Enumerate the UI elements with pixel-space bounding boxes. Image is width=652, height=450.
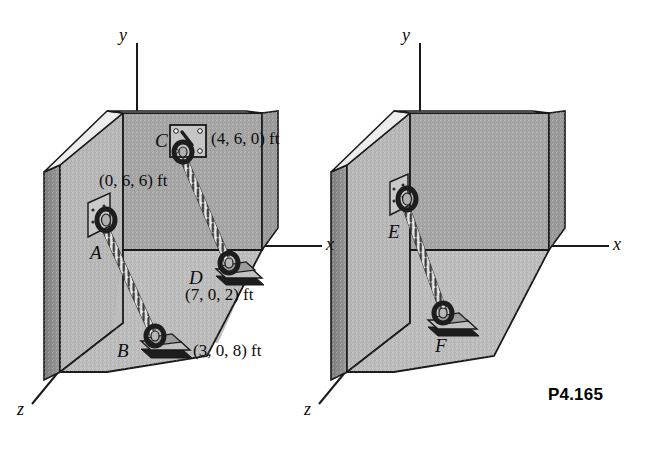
anchor-c-bracket xyxy=(170,125,206,162)
point-label-b: B xyxy=(117,341,129,360)
left-y-axis-label: y xyxy=(119,26,127,44)
left-diagram-group xyxy=(32,43,322,404)
point-label-c: C xyxy=(155,131,168,150)
anchor-c-bolt-4 xyxy=(198,149,203,154)
point-label-e: E xyxy=(388,222,400,241)
coord-label-d: (7, 0, 2) ft xyxy=(185,286,253,303)
anchor-a-bolt-2 xyxy=(91,220,94,223)
point-label-a: A xyxy=(90,243,102,262)
anchor-f-eyebolt-hole xyxy=(439,308,447,318)
figure-graphics xyxy=(0,0,652,450)
anchor-e-eyebolt-hole xyxy=(403,193,412,205)
anchor-d-eyebolt-hole xyxy=(225,258,233,268)
right-back-wall-right-texture xyxy=(549,111,565,250)
left-back-wall-top-cap xyxy=(107,111,262,113)
right-diagram-group xyxy=(319,43,609,404)
left-z-axis-label: z xyxy=(17,400,24,418)
right-y-axis-label: y xyxy=(402,26,410,44)
left-side-wall-outer-texture xyxy=(44,165,60,380)
right-back-wall-texture xyxy=(410,113,549,250)
anchor-a-eyebolt-hole xyxy=(102,214,111,226)
right-back-wall xyxy=(394,111,565,250)
figure-caption: P4.165 xyxy=(548,385,603,405)
anchor-c-eyebolt-hole xyxy=(179,147,187,157)
coord-label-c: (4, 6, 0) ft xyxy=(211,130,279,147)
right-side-wall-outer-texture xyxy=(331,165,347,380)
left-x-axis-label: x xyxy=(326,235,334,253)
right-z-axis-label: z xyxy=(304,400,311,418)
coord-label-a: (0, 6, 6) ft xyxy=(99,172,167,189)
anchor-c-bolt-1 xyxy=(174,129,179,134)
figure-p4-165: y x z C (4, 6, 0) ft (0, 6, 6) ft A B (3… xyxy=(0,0,652,450)
anchor-b-eyebolt-hole xyxy=(151,331,159,341)
point-label-f: F xyxy=(435,336,447,355)
right-x-axis-label: x xyxy=(613,235,621,253)
right-back-wall-top-cap xyxy=(394,111,549,113)
anchor-a-bolt-1 xyxy=(91,208,94,211)
coord-label-b: (3, 0, 8) ft xyxy=(193,342,261,359)
anchor-e-bolt-2 xyxy=(393,200,396,203)
anchor-e-bolt-1 xyxy=(393,188,396,191)
anchor-c-bolt-2 xyxy=(198,129,203,134)
